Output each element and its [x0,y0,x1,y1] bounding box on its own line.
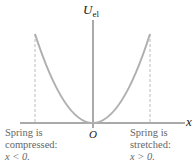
left-annotation-line2: compressed: [5,139,58,151]
origin-label: O [89,128,97,140]
left-annotation-line3: x < 0. [5,151,58,163]
right-annotation-line1: Spring is [130,127,171,139]
x-axis-label: x [186,114,192,130]
y-axis-label: Uel [83,2,99,18]
right-annotation-line2: stretched: [130,139,171,151]
left-annotation-line1: Spring is [5,127,58,139]
right-annotation-line3: x > 0. [130,151,171,163]
left-annotation: Spring is compressed: x < 0. [5,127,58,163]
right-annotation: Spring is stretched: x > 0. [130,127,171,163]
